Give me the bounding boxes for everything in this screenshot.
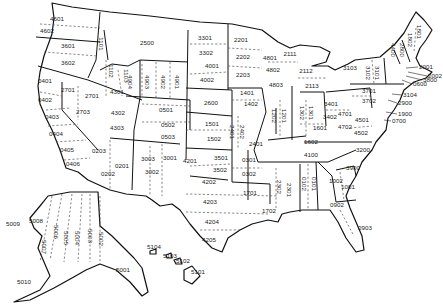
zone-label: 4802 bbox=[266, 67, 280, 73]
zone-label: 0403 bbox=[45, 114, 59, 120]
zone-label: 2701 bbox=[61, 87, 75, 93]
zone-label: 4100 bbox=[304, 152, 318, 158]
zone-label: 1401 bbox=[240, 90, 254, 96]
zone-label: 1001 bbox=[341, 184, 355, 190]
zone-label: 3402 bbox=[323, 114, 337, 120]
zone-label: 0503 bbox=[161, 134, 175, 140]
zone-label: 5102 bbox=[176, 258, 190, 264]
zone-label: 5010 bbox=[17, 279, 31, 285]
zone-label: 4801 bbox=[263, 55, 277, 61]
zone-label: 3301 bbox=[198, 35, 212, 41]
zone-label: 1302 bbox=[299, 106, 305, 120]
zone-label: 2203 bbox=[236, 72, 250, 78]
zone-label: 1701 bbox=[243, 190, 257, 196]
zone-label: 4204 bbox=[205, 219, 219, 225]
zone-label: 2202 bbox=[236, 54, 250, 60]
zone-label: 5001 bbox=[116, 267, 130, 273]
zone-label: 4201 bbox=[183, 158, 197, 164]
zone-label: 4903 bbox=[144, 75, 150, 89]
zone-label: 0903 bbox=[358, 225, 372, 231]
zone-label: 4202 bbox=[202, 179, 216, 185]
zone-label: 3601 bbox=[61, 43, 75, 49]
zone-label: 5002 bbox=[98, 232, 104, 246]
zone-label: 1102 bbox=[108, 64, 114, 78]
zone-label: 5006 bbox=[53, 225, 59, 239]
zone-label: 3102 bbox=[365, 66, 371, 80]
zone-label: 1702 bbox=[262, 208, 276, 214]
zone-label: 2402 bbox=[239, 125, 245, 139]
zone-label: 4502 bbox=[354, 130, 368, 136]
zone-label: 4302 bbox=[111, 110, 125, 116]
zone-label: 0202 bbox=[101, 171, 115, 177]
zone-label: 3200 bbox=[356, 147, 370, 153]
zone-label: 1202 bbox=[271, 109, 277, 123]
zone-label: 0404 bbox=[49, 131, 63, 137]
zone-label: 4301 bbox=[110, 89, 124, 95]
zone-label: 3302 bbox=[199, 50, 213, 56]
zone-label: 0406 bbox=[66, 161, 80, 167]
zone-label: 1601 bbox=[313, 125, 327, 131]
zone-label: 2001 bbox=[419, 64, 433, 70]
zone-label: 3501 bbox=[214, 155, 228, 161]
zone-label: 3001 bbox=[163, 155, 177, 161]
zone-label: 0600 bbox=[413, 81, 427, 87]
zone-label: 2302 bbox=[276, 180, 282, 194]
zone-label: 5104 bbox=[147, 244, 161, 250]
zone-label: 3401 bbox=[324, 101, 338, 107]
zone-label: 0102 bbox=[301, 177, 307, 191]
zone-label: 2201 bbox=[234, 37, 248, 43]
zone-label: 0203 bbox=[92, 148, 106, 154]
zone-label: 3900 bbox=[346, 165, 360, 171]
zone-label: 3003 bbox=[141, 156, 155, 162]
zone-label: 5004 bbox=[74, 231, 80, 245]
zone-label: 2401 bbox=[249, 141, 263, 147]
zone-label: 2600 bbox=[204, 100, 218, 106]
zone-label: 5009 bbox=[6, 221, 20, 227]
zone-label: 4001 bbox=[205, 63, 219, 69]
zone-label: 3701 bbox=[362, 88, 376, 94]
zone-label: 2112 bbox=[299, 68, 313, 74]
zone-label: 4702 bbox=[338, 124, 352, 130]
zone-label: 2113 bbox=[305, 83, 319, 89]
zone-label: 1402 bbox=[244, 101, 258, 107]
zone-label: 0405 bbox=[60, 147, 74, 153]
zone-label: 0502 bbox=[161, 122, 175, 128]
zone-label: 5101 bbox=[191, 269, 205, 275]
zone-label: 5005 bbox=[63, 231, 69, 245]
zone-label: 0301 bbox=[242, 157, 256, 163]
zone-label: 1301 bbox=[308, 106, 314, 120]
zone-label: 3104 bbox=[403, 92, 417, 98]
zone-label: 4205 bbox=[202, 237, 216, 243]
zone-label: 0402 bbox=[38, 97, 52, 103]
zone-label: 5007 bbox=[41, 240, 47, 254]
zone-label: 2703 bbox=[76, 109, 90, 115]
zone-label: 1502 bbox=[207, 136, 221, 142]
zone-label: 1802 bbox=[407, 33, 413, 47]
zone-label: 4002 bbox=[200, 77, 214, 83]
zone-label: 3103 bbox=[343, 65, 357, 71]
zone-label: 1201 bbox=[281, 109, 287, 123]
zone-label: 4601 bbox=[50, 16, 64, 22]
zone-label: 2401 bbox=[229, 125, 235, 139]
zone-label: 4203 bbox=[203, 199, 217, 205]
zone-label: 2701 bbox=[85, 93, 99, 99]
zone-label: 4901 bbox=[174, 75, 180, 89]
zone-label: 0501 bbox=[159, 107, 173, 113]
zone-label: 0700 bbox=[392, 118, 406, 124]
zone-label: 4501 bbox=[355, 117, 369, 123]
zone-label: 2500 bbox=[140, 40, 154, 46]
zone-label: 0101 bbox=[311, 177, 317, 191]
zone-label: 2900 bbox=[398, 100, 412, 106]
zone-label: 0302 bbox=[242, 171, 256, 177]
zone-label: 0401 bbox=[38, 78, 52, 84]
zone-label: 3602 bbox=[61, 60, 75, 66]
zone-label: 3002 bbox=[145, 169, 159, 175]
zone-label: 2111 bbox=[283, 51, 296, 57]
zone-label: 3502 bbox=[213, 167, 227, 173]
zone-label: 5003 bbox=[87, 229, 93, 243]
zone-label: 0201 bbox=[115, 163, 129, 169]
zone-label: 2800 bbox=[399, 43, 405, 57]
zone-label: 2301 bbox=[286, 183, 292, 197]
zone-label: 1602 bbox=[304, 139, 318, 145]
zone-label: 4303 bbox=[110, 125, 124, 131]
